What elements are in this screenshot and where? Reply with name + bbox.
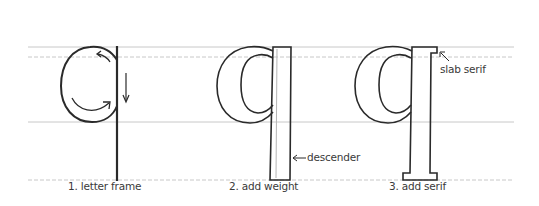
- step-2-caption: 2. add weight: [229, 180, 298, 192]
- diagram-drawing: [0, 0, 539, 206]
- slab-serif-annotation: slab serif: [440, 63, 486, 75]
- step-1-letter-frame: [61, 46, 129, 181]
- letter-construction-diagram: descender slab serif 1. letter frame 2. …: [0, 0, 539, 206]
- serifed-stem: [403, 47, 437, 180]
- thick-stem: [270, 47, 291, 180]
- stem-inner-guide: [276, 49, 277, 178]
- step-2-add-weight: [217, 47, 306, 180]
- descender-annotation: descender: [307, 151, 360, 163]
- curved-arrow-bottom-icon: [72, 98, 109, 110]
- curved-arrow-top-icon: [98, 54, 110, 62]
- step-3-caption: 3. add serif: [389, 180, 446, 192]
- step-1-caption: 1. letter frame: [68, 180, 141, 192]
- bowl-inner: [379, 55, 411, 113]
- step-3-add-serif: [355, 47, 449, 180]
- bowl-inner: [241, 55, 273, 113]
